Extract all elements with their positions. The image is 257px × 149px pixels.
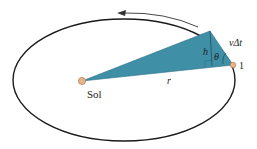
kepler-diagram: Sol r h θ vΔt 1 <box>0 0 257 149</box>
radius-label: r <box>167 75 171 86</box>
displacement-label: vΔt <box>229 37 242 48</box>
arrowhead-icon <box>117 10 126 16</box>
sun-label: Sol <box>87 88 102 100</box>
planet-icon <box>230 62 236 68</box>
height-label: h <box>203 46 208 57</box>
planet-label: 1 <box>239 60 244 71</box>
delta-t-symbol: Δt <box>232 37 242 48</box>
angle-label: θ <box>214 51 219 62</box>
sun-icon <box>78 77 85 84</box>
